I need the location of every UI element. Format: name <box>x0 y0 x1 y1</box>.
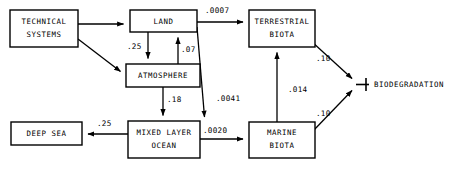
node-marine-biota[interactable]: MARINE BIOTA <box>249 122 315 158</box>
biodegradation-label: BIODEGRADATION <box>374 80 444 89</box>
node-atmosphere[interactable]: ATMOSPHERE <box>126 64 200 87</box>
flux-label-terrestrial-biota-to-biodegradation: .10 <box>316 54 331 63</box>
flux-label-marine-biota-to-terrestrial-biota: .014 <box>288 85 308 94</box>
node-land-label: LAND <box>154 17 174 26</box>
node-atmosphere-label: ATMOSPHERE <box>138 71 188 80</box>
flux-label-atmosphere-to-land: .07 <box>181 45 196 54</box>
node-deep-sea-label: DEEP SEA <box>27 129 67 138</box>
flux-diagram: .25 .07 .0007 .0041 .18 .25 <box>0 0 454 169</box>
node-deep-sea[interactable]: DEEP SEA <box>11 122 82 145</box>
node-terrestrial-biota[interactable]: TERRESTRIAL BIOTA <box>249 10 315 47</box>
node-marine-biota-label-line1: MARINE <box>267 128 297 137</box>
node-terrestrial-biota-label-line2: BIOTA <box>270 30 295 39</box>
flux-label-marine-biota-to-biodegradation: .10 <box>316 109 331 118</box>
flux-label-land-to-terrestrial-biota: .0007 <box>205 6 229 15</box>
edge-land-to-atmosphere: .25 <box>127 32 148 59</box>
edge-mixed-layer-ocean-to-deep-sea: .25 <box>88 119 128 134</box>
edge-terrestrial-biota-to-biodegradation: .10 <box>311 41 352 79</box>
node-marine-biota-label-line2: BIOTA <box>270 141 295 150</box>
edge-marine-biota-to-terrestrial-biota: .014 <box>277 53 308 123</box>
biodegradation-sink-symbol <box>356 78 369 91</box>
node-mixed-layer-ocean-label-line2: OCEAN <box>152 141 177 150</box>
edge-land-to-mixed-layer-ocean: .0041 <box>197 27 240 117</box>
node-technical-systems-label-line2: SYSTEMS <box>27 30 62 39</box>
flux-label-mixed-layer-ocean-to-deep-sea: .25 <box>97 119 112 128</box>
node-mixed-layer-ocean-label-line1: MIXED LAYER <box>137 128 192 137</box>
node-land[interactable]: LAND <box>130 10 197 32</box>
flux-label-mixed-layer-ocean-to-marine-biota: .0020 <box>203 126 227 135</box>
node-mixed-layer-ocean[interactable]: MIXED LAYER OCEAN <box>128 121 200 158</box>
edge-atmosphere-to-mixed-layer-ocean: .18 <box>163 87 182 116</box>
flux-label-atmosphere-to-mixed-layer-ocean: .18 <box>167 95 182 104</box>
flux-label-land-to-atmosphere: .25 <box>127 42 142 51</box>
flux-diagram-canvas: .25 .07 .0007 .0041 .18 .25 <box>0 0 454 169</box>
edge-atmosphere-to-land: .07 <box>178 38 196 65</box>
node-technical-systems-label-line1: TECHNICAL <box>22 17 67 26</box>
edge-technical-systems-to-atmosphere <box>78 39 121 72</box>
node-technical-systems[interactable]: TECHNICAL SYSTEMS <box>10 10 78 47</box>
edge-marine-biota-to-biodegradation: .10 <box>313 91 352 132</box>
node-terrestrial-biota-label-line1: TERRESTRIAL <box>255 17 310 26</box>
edge-mixed-layer-ocean-to-marine-biota: .0020 <box>200 126 243 139</box>
edge-land-to-terrestrial-biota: .0007 <box>197 6 243 22</box>
flux-label-land-to-mixed-layer-ocean: .0041 <box>216 94 240 103</box>
